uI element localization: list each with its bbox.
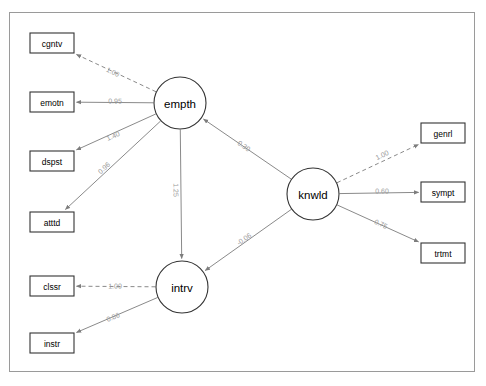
edges-layer: [65, 54, 418, 332]
node-label-knwld: knwld: [298, 189, 327, 201]
edge-label-empth-to-emotn: 0.95: [108, 97, 122, 104]
node-knwld[interactable]: knwld: [287, 168, 339, 220]
node-label-genrl: genrl: [434, 129, 453, 139]
node-label-sympt: sympt: [432, 188, 455, 198]
edge-label-knwld-to-intrv: -0.06: [235, 231, 252, 246]
node-label-intrv: intrv: [171, 282, 193, 294]
node-sympt[interactable]: sympt: [421, 182, 465, 202]
edge-label-empth-to-intrv: 1.25: [172, 183, 179, 197]
node-genrl[interactable]: genrl: [421, 123, 465, 143]
edge-labels-layer: 1.000.951.400.961.000.861.000.600.751.25…: [97, 66, 390, 323]
edge-label-knwld-to-genrl: 1.00: [374, 149, 389, 161]
edge-knwld-to-genrl: [337, 145, 419, 183]
node-label-emotn: emotn: [40, 98, 64, 108]
edge-label-intrv-to-instr: 0.86: [105, 311, 120, 323]
figure-canvas: 1.000.951.400.961.000.861.000.600.751.25…: [0, 0, 486, 386]
node-intrv[interactable]: intrv: [156, 261, 208, 313]
node-clssr[interactable]: clssr: [30, 276, 74, 296]
node-label-trtmt: trtmt: [435, 249, 453, 259]
edge-label-knwld-to-trtmt: 0.75: [373, 218, 388, 230]
edge-label-empth-to-dspst: 1.40: [105, 130, 120, 142]
edge-label-empth-to-cgntv: 1.00: [105, 66, 120, 78]
node-dspst[interactable]: dspst: [30, 151, 74, 171]
node-label-clssr: clssr: [43, 282, 61, 292]
node-emotn[interactable]: emotn: [30, 92, 74, 112]
path-diagram: 1.000.951.400.961.000.861.000.600.751.25…: [0, 0, 486, 386]
edge-label-knwld-to-sympt: 0.60: [375, 187, 389, 194]
node-trtmt[interactable]: trtmt: [421, 243, 465, 263]
node-label-atttd: atttd: [44, 218, 61, 228]
node-cgntv[interactable]: cgntv: [30, 33, 74, 53]
node-label-instr: instr: [44, 339, 60, 349]
edge-label-intrv-to-clssr: 1.00: [108, 282, 122, 289]
node-label-dspst: dspst: [42, 157, 63, 167]
node-label-cgntv: cgntv: [42, 39, 63, 49]
node-empth[interactable]: empth: [154, 77, 206, 129]
node-label-empth: empth: [164, 98, 196, 110]
node-instr[interactable]: instr: [30, 333, 74, 353]
node-atttd[interactable]: atttd: [30, 212, 74, 232]
